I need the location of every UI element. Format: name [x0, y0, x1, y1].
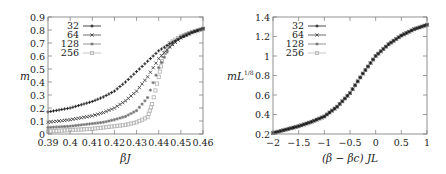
y-axis-label: m [20, 70, 30, 82]
x-tick-label: 1 [424, 137, 430, 148]
x-tick-label: −0.5 [338, 137, 361, 148]
y-tick-label: 0.8 [255, 70, 270, 81]
y-tick-label: 1.2 [255, 31, 270, 42]
y-axis-label: mL1/8 [227, 69, 254, 82]
chart-scaling-collapse-plot: −2−1.5−1−0.500.510.20.40.60.811.21.4(β −… [223, 0, 446, 174]
y-tick-label: 0.5 [30, 64, 45, 75]
legend: 3264128256 [286, 20, 326, 58]
x-tick-label: 0 [373, 137, 379, 148]
x-tick-label: 0.42 [104, 137, 125, 148]
y-tick-label: 0.8 [30, 25, 45, 36]
x-axis-label: βJ [119, 152, 131, 164]
y-tick-label: 0.6 [255, 90, 270, 101]
x-tick-label: 0.45 [170, 137, 191, 148]
y-tick-label: 0.4 [30, 77, 45, 88]
y-tick-label: 0.3 [30, 90, 45, 101]
x-tick-label: 0.5 [394, 137, 409, 148]
x-tick-label: 0.4 [63, 137, 78, 148]
y-tick-label: 1 [264, 51, 270, 62]
x-tick-label: −1 [317, 137, 331, 148]
y-tick-label: 0.6 [30, 51, 45, 62]
chart-scaling-collapse: −2−1.5−1−0.500.510.20.40.60.811.21.4(β −… [223, 0, 446, 174]
y-tick-label: 0.2 [30, 103, 45, 114]
x-tick-label: 0.43 [126, 137, 147, 148]
x-axis-label: (β − βc) JL [322, 152, 378, 164]
chart-magnetization-plot: 0.390.40.410.420.430.440.450.4600.10.20.… [0, 0, 223, 174]
y-tick-label: 0.9 [30, 12, 45, 23]
x-tick-label: 0.41 [82, 137, 103, 148]
x-tick-label: −1.5 [287, 137, 310, 148]
y-tick-label: 0.7 [30, 38, 45, 49]
legend: 3264128256 [61, 20, 101, 58]
y-tick-label: 1.4 [255, 12, 270, 23]
y-tick-label: 0.4 [255, 109, 270, 120]
y-tick-label: 0.2 [255, 129, 270, 140]
y-axis: 0.20.40.60.811.21.4 [255, 12, 427, 140]
y-tick-label: 0 [39, 129, 45, 140]
x-tick-label: 0.46 [192, 137, 213, 148]
legend-label-L256: 256 [61, 47, 79, 58]
legend-label-L256: 256 [286, 47, 304, 58]
chart-magnetization: 0.390.40.410.420.430.440.450.4600.10.20.… [0, 0, 223, 174]
y-tick-label: 0.1 [30, 116, 45, 127]
x-tick-label: 0.44 [148, 137, 169, 148]
